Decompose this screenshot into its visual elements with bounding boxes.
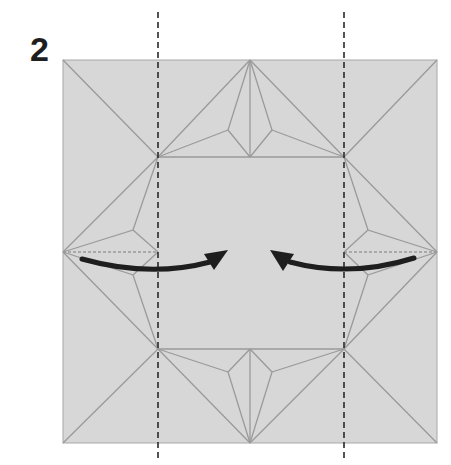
origami-diagram bbox=[0, 0, 451, 465]
